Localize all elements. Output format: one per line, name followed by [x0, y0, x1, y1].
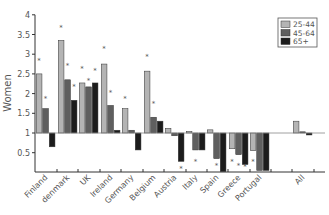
x-tick-label: Italy [181, 173, 200, 192]
bar-chart: 0.511.522.533.54 Women *****************… [0, 0, 329, 215]
asterisk-marker: * [230, 158, 234, 166]
y-tick-label: 1.5 [17, 109, 30, 118]
bar-group-uk [79, 83, 98, 133]
y-tick-label: 3.5 [17, 31, 30, 40]
asterisk-marker: * [93, 67, 97, 75]
x-tick-label: All [293, 173, 306, 186]
bar-25-44 [36, 74, 42, 133]
bar-65+ [199, 133, 205, 150]
x-axis: FinlanddenmarkUKIrelandGermanyBelgiumAus… [23, 169, 325, 205]
bar-45-64 [236, 133, 242, 155]
x-tick-label: UK [78, 173, 93, 188]
bar-25-44 [58, 40, 64, 133]
x-tick-label: Austria [152, 173, 178, 199]
bar-25-44 [122, 109, 128, 133]
bar-25-44 [207, 130, 213, 133]
bar-45-64 [172, 133, 178, 136]
bar-25-44 [165, 128, 171, 133]
legend-label: 65+ [293, 37, 309, 46]
y-tick-label: 0.5 [17, 149, 30, 158]
asterisk-marker: * [37, 57, 41, 65]
y-tick-label: 2.5 [17, 70, 30, 79]
y-axis-label: Women [2, 74, 13, 112]
legend-swatch [281, 21, 290, 28]
asterisk-marker: * [237, 162, 241, 170]
bar-65+ [242, 133, 248, 165]
y-tick-label: 1 [25, 129, 30, 138]
bar-45-64 [86, 87, 92, 133]
bar-group-ireland [101, 64, 120, 133]
legend-swatch [281, 38, 290, 45]
bar-45-64 [214, 133, 220, 159]
asterisk-marker: * [152, 100, 156, 108]
asterisk-marker: * [251, 158, 255, 166]
asterisk-marker: * [87, 77, 91, 85]
asterisk-marker: * [145, 53, 149, 61]
bar-65+ [92, 83, 98, 133]
bar-65+ [157, 121, 163, 133]
asterisk-marker: * [123, 95, 127, 103]
bar-25-44 [101, 64, 107, 133]
bar-25-44 [144, 71, 150, 133]
asterisk-marker: * [80, 65, 84, 73]
bar-65+ [114, 130, 120, 133]
legend-swatch [281, 30, 290, 37]
asterisk-marker: * [59, 24, 63, 32]
asterisk-marker: * [102, 45, 106, 53]
bar-45-64 [193, 133, 199, 150]
bar-65+ [220, 133, 226, 172]
asterisk-marker: * [243, 163, 247, 171]
bar-65+ [71, 100, 77, 133]
bar-45-64 [151, 117, 157, 133]
asterisk-marker: * [109, 89, 113, 97]
legend: 25-4445-6465+ [278, 18, 317, 47]
y-tick-label: 3 [25, 50, 30, 59]
bar-group-italy [186, 131, 205, 150]
bar-25-44 [229, 133, 235, 149]
y-tick-label: 4 [25, 11, 30, 20]
bar-65+ [178, 133, 184, 161]
y-tick-label: 2 [25, 90, 30, 99]
bar-45-64 [257, 133, 263, 170]
asterisk-marker: * [72, 83, 76, 91]
asterisk-marker: * [44, 95, 48, 103]
bar-group-germany [122, 109, 141, 150]
bar-45-64 [43, 109, 49, 133]
bar-65+ [135, 133, 141, 150]
bar-25-44 [293, 121, 299, 133]
asterisk-marker: * [215, 162, 219, 170]
y-axis: 0.511.522.533.54 [17, 11, 35, 172]
bar-group-finland [36, 74, 55, 147]
bar-25-44 [79, 83, 85, 133]
asterisk-marker: * [194, 158, 198, 166]
asterisk-marker: * [66, 62, 70, 70]
bars [36, 40, 312, 171]
bar-65+ [263, 133, 269, 170]
bar-45-64 [65, 80, 71, 133]
bar-25-44 [250, 133, 256, 151]
bar-65+ [49, 133, 55, 147]
bar-45-64 [129, 130, 135, 133]
bar-45-64 [108, 105, 114, 133]
